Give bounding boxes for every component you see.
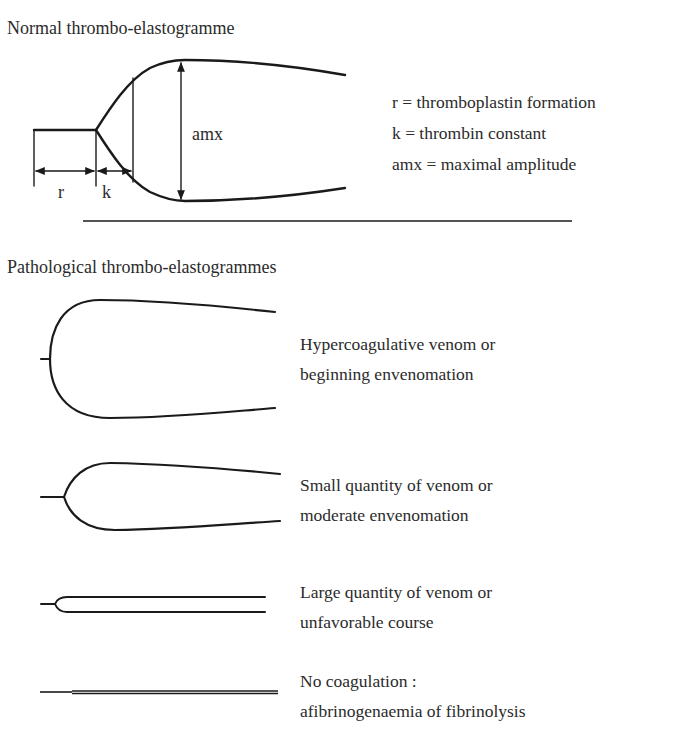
k-label: k xyxy=(102,182,111,202)
legend-r: r = thromboplastin formation xyxy=(392,89,596,115)
pathological-teg-2 xyxy=(41,463,280,530)
pathological-teg-1 xyxy=(41,300,275,418)
pathological-4-line1: No coagulation : xyxy=(300,668,417,694)
normal-teg-graph xyxy=(34,60,345,201)
pathological-3-line1: Large quantity of venom or xyxy=(300,579,492,605)
legend-amx: amx = maximal amplitude xyxy=(392,151,576,177)
pathological-2-line2: moderate envenomation xyxy=(300,502,469,528)
pathological-3-line2: unfavorable course xyxy=(300,609,434,635)
pathological-1-line2: beginning envenomation xyxy=(300,361,474,387)
legend-k: k = thrombin constant xyxy=(392,120,546,146)
pathological-2-line1: Small quantity of venom or xyxy=(300,472,492,498)
pathological-teg-4 xyxy=(40,691,278,694)
r-label: r xyxy=(58,182,64,202)
pathological-4-line2: afibrinogenaemia of fibrinolysis xyxy=(300,698,526,724)
pathological-1-line1: Hypercoagulative venom or xyxy=(300,331,495,357)
pathological-teg-3 xyxy=(41,597,265,612)
amx-label: amx xyxy=(192,124,223,144)
